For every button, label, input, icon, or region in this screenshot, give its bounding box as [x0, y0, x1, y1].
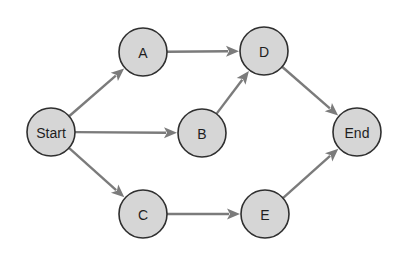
edge-line: [216, 80, 242, 114]
node-label: Start: [36, 125, 66, 141]
node-label: End: [345, 125, 370, 141]
node-label: D: [259, 44, 269, 60]
edge-c-to-e: [167, 209, 240, 220]
edge-a-to-d: [167, 46, 239, 57]
edge-b-to-d: [216, 71, 248, 114]
node-b: B: [178, 109, 226, 157]
edge-e-to-end: [283, 149, 338, 198]
edge-d-to-end: [282, 67, 338, 116]
edge-line: [167, 51, 228, 52]
node-label: B: [197, 126, 206, 142]
edge-start-to-b: [75, 127, 177, 138]
flow-diagram: StartABCDEEnd: [0, 0, 413, 261]
node-label: C: [138, 207, 148, 223]
edge-line: [283, 156, 330, 198]
node-start: Start: [27, 108, 75, 156]
node-a: A: [119, 28, 167, 76]
edge-start-to-a: [69, 68, 124, 116]
edge-line: [282, 67, 330, 109]
edge-start-to-c: [69, 148, 124, 197]
node-end: End: [333, 108, 381, 156]
edge-line: [69, 76, 116, 117]
node-label: A: [138, 45, 148, 61]
edge-line: [75, 132, 166, 133]
node-d: D: [240, 27, 288, 75]
arrowhead-icon: [237, 71, 249, 85]
node-e: E: [241, 190, 289, 238]
node-label: E: [260, 207, 269, 223]
edge-line: [69, 148, 116, 190]
node-c: C: [119, 190, 167, 238]
